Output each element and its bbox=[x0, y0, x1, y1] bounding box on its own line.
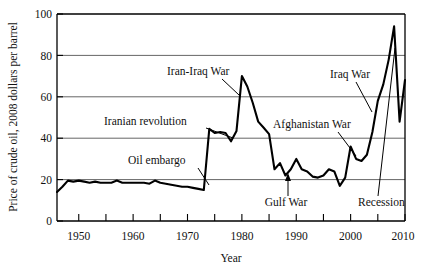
annotation-iran-iraq-war-label: Iran-Iraq War bbox=[167, 65, 230, 78]
x-tick-label-1980: 1980 bbox=[230, 230, 253, 242]
y-tick-label-40: 40 bbox=[41, 132, 53, 144]
x-tick-label-1960: 1960 bbox=[122, 230, 145, 242]
oil-price-line-chart: 100 80 60 40 20 0 1950 1960 1970 1980 19… bbox=[0, 0, 432, 274]
y-tick-label-80: 80 bbox=[41, 50, 53, 62]
annotation-gulf-war-label: Gulf War bbox=[265, 196, 308, 208]
x-tick-label-1990: 1990 bbox=[285, 230, 308, 242]
y-tick-label-60: 60 bbox=[41, 91, 53, 103]
x-tick-label-2010: 2010 bbox=[392, 230, 415, 242]
x-axis-title: Year bbox=[220, 252, 241, 264]
annotation-iraq-war-label: Iraq War bbox=[330, 68, 370, 81]
annotation-oil-embargo-label: Oil embargo bbox=[128, 154, 186, 167]
x-tick-label-2000: 2000 bbox=[339, 230, 362, 242]
chart-figure: 100 80 60 40 20 0 1950 1960 1970 1980 19… bbox=[0, 0, 432, 274]
y-tick-label-100: 100 bbox=[35, 8, 53, 20]
annotation-afghanistan-war-label: Afghanistan War bbox=[273, 118, 351, 131]
y-tick-label-20: 20 bbox=[41, 174, 53, 186]
x-tick-label-1950: 1950 bbox=[67, 230, 90, 242]
y-tick-label-0: 0 bbox=[46, 215, 52, 227]
annotation-iranian-revolution-label: Iranian revolution bbox=[104, 115, 187, 127]
y-axis-title: Price of crude oil, 2008 dollars per bar… bbox=[7, 22, 20, 212]
annotation-recession-label: Recession bbox=[358, 196, 405, 208]
chart-background bbox=[0, 0, 432, 274]
x-tick-label-1970: 1970 bbox=[176, 230, 199, 242]
